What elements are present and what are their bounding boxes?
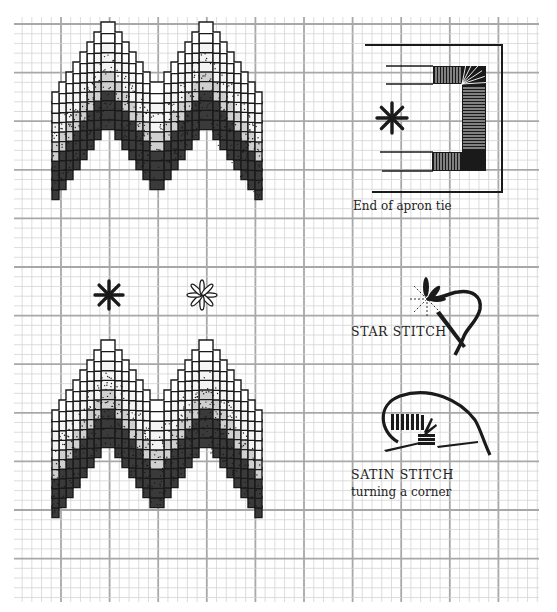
star-stitch-caption: STAR STITCH [351,324,447,339]
satin-stitch-diagram [383,393,490,455]
satin-stitch-caption: SATIN STITCH [351,467,454,482]
apron-star-stitch-icon [377,103,407,133]
upper-bargello-pattern [52,22,262,200]
outlined-star-stitch-icon [187,280,217,310]
solid-star-stitch-icon [95,281,123,309]
apron-tie-caption: End of apron tie [353,199,452,213]
graph-paper-canvas [0,0,557,612]
bargello-patterns [52,22,262,518]
satin-stitch-subcaption: turning a corner [351,485,451,499]
